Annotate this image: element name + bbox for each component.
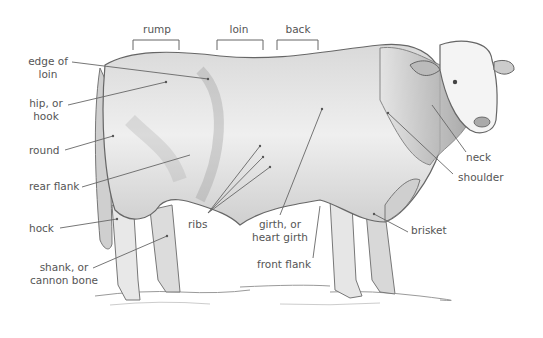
label-girth: girth, or heart girth xyxy=(245,218,315,244)
label-round: round xyxy=(29,144,60,157)
label-brisket: brisket xyxy=(411,224,447,237)
label-shoulder: shoulder xyxy=(458,171,504,184)
loin-bracket xyxy=(217,40,263,50)
rump-bracket xyxy=(133,40,179,50)
label-back: back xyxy=(281,23,315,36)
back-bracket xyxy=(277,40,318,50)
label-hip: hip, or hook xyxy=(24,97,68,123)
label-loin: loin xyxy=(222,23,256,36)
label-ribs: ribs xyxy=(188,218,207,231)
label-edge-of-loin: edge of loin xyxy=(24,55,72,81)
cow-illustration xyxy=(0,0,543,338)
label-neck: neck xyxy=(466,151,491,164)
label-rear-flank: rear flank xyxy=(29,180,79,193)
region-brackets xyxy=(133,40,318,50)
label-hock: hock xyxy=(29,222,54,235)
label-rump: rump xyxy=(140,23,174,36)
cow-anatomy-diagram: rump loin back edge of loin hip, or hook… xyxy=(0,0,543,338)
label-front-flank: front flank xyxy=(257,258,311,271)
label-shank: shank, or cannon bone xyxy=(28,261,100,287)
ground-sketch xyxy=(95,285,451,305)
